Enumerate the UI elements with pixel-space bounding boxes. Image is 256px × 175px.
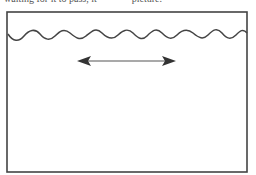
frame-box [7, 12, 247, 172]
double-arrow-icon [77, 56, 176, 66]
wave-line [8, 30, 247, 41]
diagram [0, 0, 256, 175]
